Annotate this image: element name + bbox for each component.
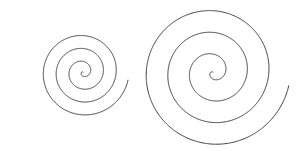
background-rect [0, 0, 304, 151]
spiral-svg [0, 0, 304, 151]
spiral-figure-canvas [0, 0, 304, 151]
